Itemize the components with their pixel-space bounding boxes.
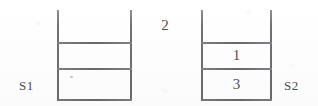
stack-s1-divider-upper <box>57 42 132 44</box>
stack-s2-cell-bottom: 3 <box>201 77 272 92</box>
stack-s1-floor <box>57 99 132 101</box>
floating-value-2: 2 <box>158 18 172 33</box>
stack-s2-cell-middle: 1 <box>201 48 272 63</box>
stack-s1-right-wall <box>130 10 132 101</box>
stack-s1-left-wall <box>57 10 59 101</box>
stack-s1-label: S1 <box>19 79 34 92</box>
diagram-canvas: S1 2 1 3 S2 <box>0 0 318 106</box>
stack-s2-label: S2 <box>284 79 299 92</box>
stack-s1 <box>57 10 132 101</box>
stack-s2-floor <box>201 99 272 101</box>
stack-s1-divider-lower <box>57 68 132 70</box>
scan-speck <box>70 76 73 78</box>
stack-s2-divider-lower <box>201 68 272 70</box>
stack-s2: 1 3 <box>201 10 272 101</box>
stack-s2-divider-upper <box>201 42 272 44</box>
